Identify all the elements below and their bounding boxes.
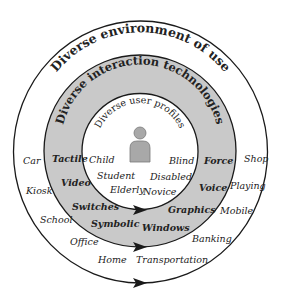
environment-item: Office bbox=[70, 236, 99, 247]
technology-item: Force bbox=[203, 155, 233, 166]
concentric-diagram: Diverse environment of use Diverse inter… bbox=[0, 0, 281, 298]
environment-item: School bbox=[40, 214, 72, 225]
profile-item: Child bbox=[89, 154, 115, 165]
technology-item: Windows bbox=[142, 222, 190, 233]
technology-item: Video bbox=[61, 177, 91, 188]
environment-item: Mobile bbox=[219, 205, 254, 216]
profile-item: Disabled bbox=[149, 171, 192, 182]
environment-item: Shop bbox=[244, 153, 268, 164]
environment-item: Transportation bbox=[136, 254, 208, 265]
technology-item: Symbolic bbox=[91, 218, 140, 229]
environment-item: Car bbox=[23, 155, 42, 166]
profile-item: Student bbox=[97, 170, 135, 181]
technology-item: Switches bbox=[72, 201, 120, 212]
profile-item: Elderly bbox=[109, 184, 145, 195]
environment-item: Playing bbox=[229, 180, 266, 191]
profile-item: Novice bbox=[142, 186, 177, 197]
environment-item: Kiosk bbox=[25, 185, 53, 196]
profile-item: Blind bbox=[168, 155, 194, 166]
technology-item: Graphics bbox=[168, 204, 216, 215]
technology-item: Tactile bbox=[52, 153, 88, 164]
environment-item: Home bbox=[97, 254, 127, 265]
environment-item: Banking bbox=[191, 233, 232, 244]
technology-item: Voice bbox=[199, 182, 227, 193]
